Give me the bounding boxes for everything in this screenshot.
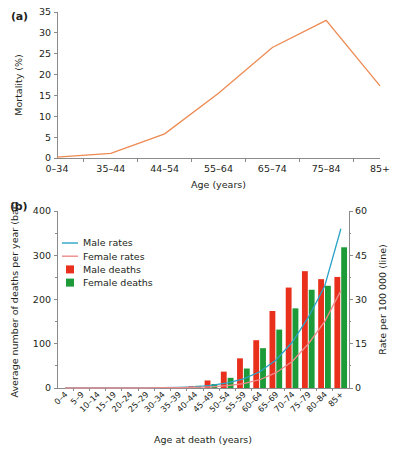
panel-b-x-axis-title: Age at death (years)	[154, 434, 252, 445]
legend-bar-swatch	[66, 279, 74, 287]
panel-a-xtick-label: 55–64	[204, 163, 233, 174]
legend-bar-swatch	[66, 265, 74, 273]
panel-a-ytick-label: 10	[39, 111, 51, 122]
panel-b-xtick-label: 85+	[326, 389, 345, 408]
female-deaths-bar	[341, 247, 347, 388]
panel-b-ytick-right-label: 15	[355, 338, 367, 349]
panel-b-chart: 01002003004000153045600–45–910–1415–1920…	[0, 192, 396, 452]
panel-b: (b) 01002003004000153045600–45–910–1415–…	[0, 192, 396, 452]
panel-a-ytick-label: 5	[45, 132, 51, 143]
panel-a-ytick-label: 25	[39, 48, 51, 59]
legend-item: Female deaths	[66, 277, 153, 288]
panel-a: (a) 051015202530350–3435–4444–5455–6465–…	[0, 0, 396, 192]
female-deaths-bar	[293, 308, 299, 388]
legend-label: Male deaths	[83, 264, 141, 275]
legend-item: Male rates	[62, 237, 133, 248]
panel-b-ytick-left-label: 0	[45, 382, 51, 393]
panel-b-xtick-label: 0–4	[52, 389, 69, 406]
panel-a-ytick-label: 15	[39, 90, 51, 101]
panel-b-ytick-right-label: 45	[355, 250, 367, 261]
panel-b-ytick-left-label: 400	[33, 205, 51, 216]
panel-a-ytick-label: 35	[39, 6, 51, 17]
male-deaths-bar	[302, 271, 308, 388]
panel-a-xtick-label: 85+	[370, 163, 390, 174]
panel-b-label: (b)	[10, 200, 27, 213]
panel-b-y-axis-title-right: Rate per 100 000 (line)	[377, 244, 388, 354]
panel-b-ytick-right-label: 60	[355, 205, 367, 216]
panel-a-ytick-label: 20	[39, 69, 51, 80]
legend-label: Female rates	[83, 251, 145, 262]
panel-a-x-axis-title: Age (years)	[191, 179, 246, 190]
panel-a-xtick-label: 0–34	[46, 163, 69, 174]
panel-a-label: (a)	[11, 10, 28, 23]
legend-item: Male deaths	[66, 264, 141, 275]
panel-b-y-axis-title-left: Average number of deaths per year (bar)	[9, 202, 20, 398]
panel-a-xtick-label: 75–84	[312, 163, 341, 174]
panel-b-ytick-left-label: 200	[33, 294, 51, 305]
panel-a-y-axis-title: Mortality (%)	[13, 54, 24, 116]
panel-a-mortality-line	[57, 20, 380, 157]
panel-a-chart: 051015202530350–3435–4444–5455–6465–7475…	[0, 0, 396, 192]
male-deaths-bar	[286, 288, 292, 388]
panel-a-xtick-label: 44–54	[150, 163, 179, 174]
legend-item: Female rates	[62, 251, 145, 262]
panel-b-ytick-right-label: 30	[355, 294, 367, 305]
panel-b-ytick-left-label: 300	[33, 250, 51, 261]
female-rates-line	[65, 291, 341, 388]
legend-label: Male rates	[83, 237, 133, 248]
panel-a-xtick-label: 65–74	[258, 163, 287, 174]
panel-a-xtick-label: 35–44	[96, 163, 125, 174]
female-deaths-bar	[325, 286, 331, 388]
panel-b-ytick-right-label: 0	[355, 382, 361, 393]
figure-container: (a) 051015202530350–3435–4444–5455–6465–…	[0, 0, 396, 452]
legend-label: Female deaths	[83, 277, 153, 288]
male-deaths-bar	[318, 279, 324, 388]
panel-a-ytick-label: 0	[45, 152, 51, 163]
panel-b-ytick-left-label: 100	[33, 338, 51, 349]
male-deaths-bar	[270, 311, 276, 388]
panel-a-ytick-label: 30	[39, 27, 51, 38]
